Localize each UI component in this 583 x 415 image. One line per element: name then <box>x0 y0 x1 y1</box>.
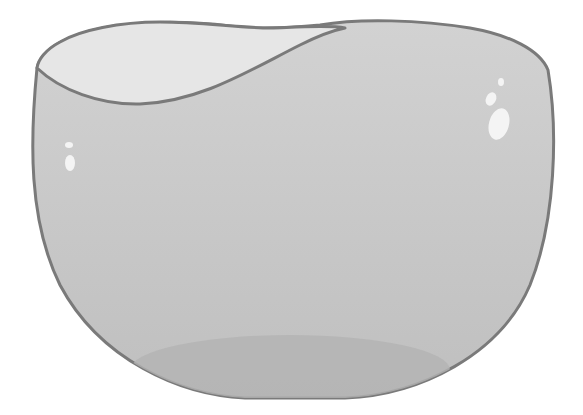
glass-bowl-icon <box>0 0 583 415</box>
base-shadow <box>130 335 450 405</box>
bowl-illustration <box>0 0 583 415</box>
highlight-right-tiny <box>498 78 504 86</box>
highlight-left-large <box>65 155 75 171</box>
highlight-left-small <box>65 142 73 148</box>
